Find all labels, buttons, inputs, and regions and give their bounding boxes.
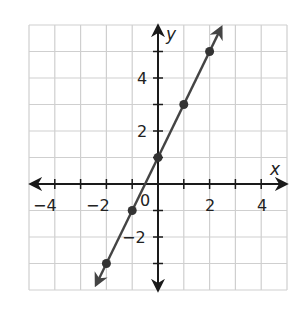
data-point [179,100,188,109]
y-axis-label: y [165,24,177,44]
coordinate-plane: x y 0 −4 −2 2 4 4 2 −2 [0,0,295,325]
y-tick-label: 2 [137,122,147,141]
x-tick-label: −4 [33,196,57,215]
y-tick-label: 4 [137,69,147,88]
origin-label: 0 [140,191,150,210]
x-tick-label: −2 [86,196,110,215]
x-axis-label: x [269,159,281,179]
data-point [102,259,111,268]
x-tick-label: 4 [257,196,267,215]
data-point [205,47,214,56]
data-point [128,206,137,215]
x-tick-label: 2 [205,196,215,215]
data-point [154,153,163,162]
y-tick-label: −2 [122,228,146,247]
